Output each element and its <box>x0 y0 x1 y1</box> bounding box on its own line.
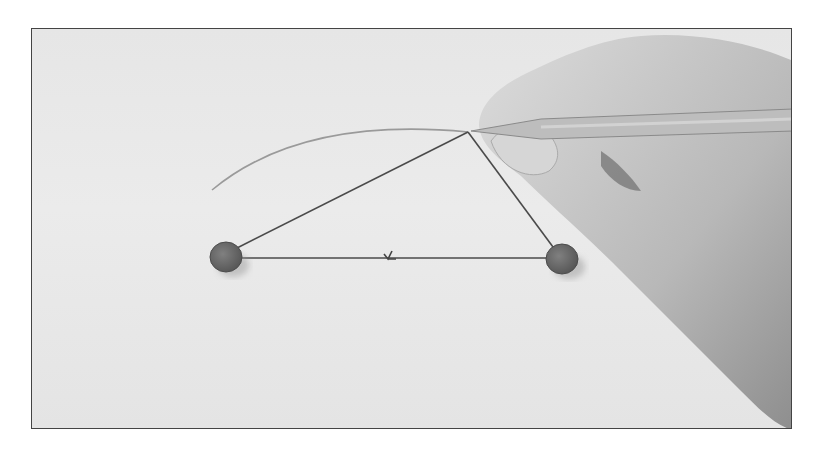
right-pin <box>546 244 578 274</box>
photo-frame <box>31 28 792 429</box>
drawn-arc <box>212 129 468 190</box>
photo-illustration <box>32 29 792 429</box>
left-pin <box>210 242 242 272</box>
hand <box>479 35 792 429</box>
